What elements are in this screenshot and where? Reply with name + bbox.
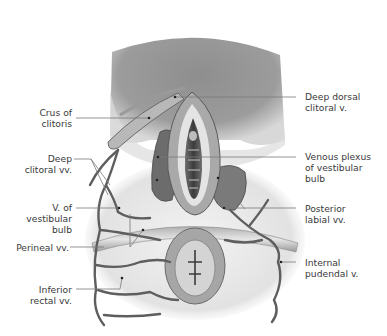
label-inferior-rectal-vv: Inferior rectal vv. [30,284,72,306]
label-deep-dorsal-clitoral-v: Deep dorsal clitoral v. [305,91,360,113]
label-internal-pudendal-v: Internal pudendal v. [305,257,359,279]
label-v-of-vestibular-bulb: V. of vestibular bulb [26,202,72,235]
label-venous-plexus-of-vestibular-bulb: Venous plexus of vestibular bulb [305,151,371,184]
label-posterior-labial-vv: Posterior labial vv. [305,203,346,225]
label-perineal-vv: Perineal vv. [16,242,69,253]
anatomy-figure: Crus of clitoris Deep clitoral vv. V. of… [0,0,387,336]
label-crus-of-clitoris: Crus of clitoris [39,107,72,129]
label-deep-clitoral-vv: Deep clitoral vv. [25,153,72,175]
anal-canal [165,228,225,304]
